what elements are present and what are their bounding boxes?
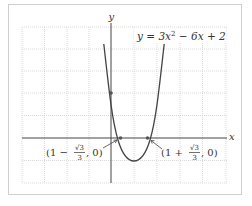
leader-arrows (103, 140, 162, 149)
svg-text:y = 3x2 − 6x + 2: y = 3x2 − 6x + 2 (136, 30, 226, 42)
x-axis-label: x (229, 131, 235, 142)
root-right-point (146, 136, 150, 140)
root-right-annotation: (1 + √3 3 , 0) (161, 144, 218, 162)
chart-plot: x y y = 3x2 − 6x + 2 (1 − √3 3 , 0) (1 +… (0, 0, 252, 206)
svg-text:3: 3 (193, 154, 197, 162)
svg-text:(1 −: (1 − (46, 147, 68, 158)
equation-label: y = 3x2 − 6x + 2 (134, 29, 226, 43)
root-left-annotation: (1 − √3 3 , 0) (46, 144, 103, 162)
root-left-point (119, 136, 123, 140)
y-intercept-point (109, 91, 113, 95)
svg-text:√3: √3 (75, 144, 84, 152)
svg-text:3: 3 (78, 154, 82, 162)
y-axis-label: y (108, 11, 115, 22)
svg-text:√3: √3 (190, 144, 199, 152)
svg-text:, 0): , 0) (201, 147, 218, 158)
svg-text:(1 +: (1 + (161, 147, 183, 158)
svg-text:, 0): , 0) (86, 147, 103, 158)
